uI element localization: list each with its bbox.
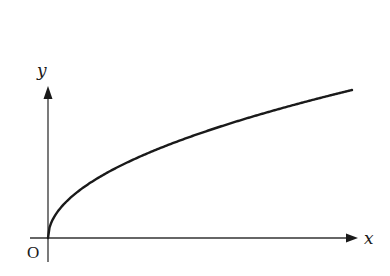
origin-label: O (27, 243, 39, 262)
x-axis-arrow-icon (346, 234, 358, 243)
x-axis-label: x (364, 228, 374, 248)
chart-canvas: y x O (0, 0, 390, 276)
sqrt-curve (48, 90, 352, 238)
y-axis-label: y (36, 60, 47, 80)
y-axis-arrow-icon (44, 86, 53, 99)
